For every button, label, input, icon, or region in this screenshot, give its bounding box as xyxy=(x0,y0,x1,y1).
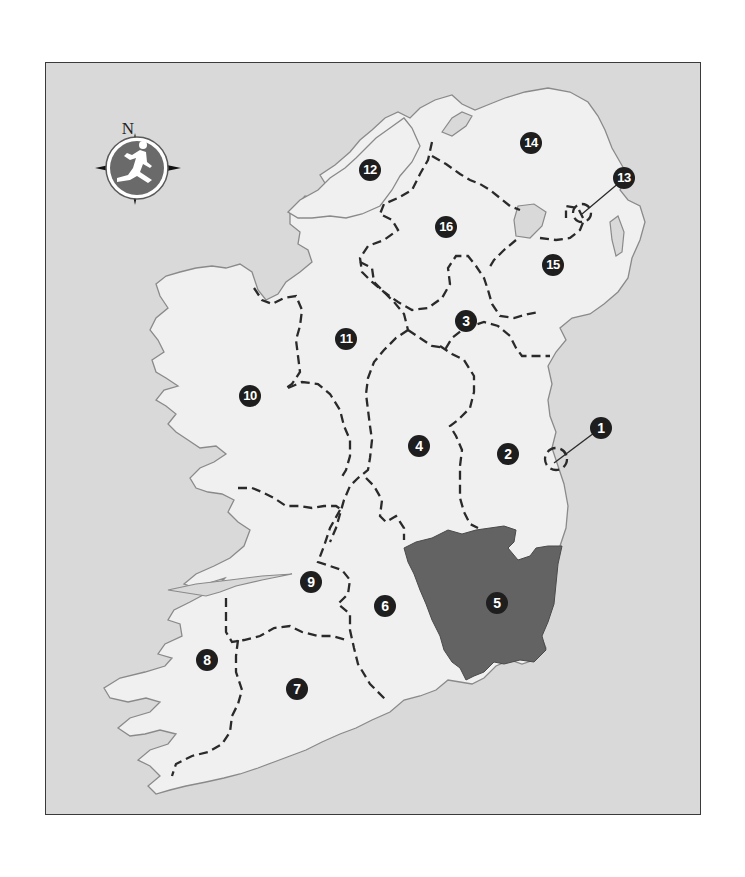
region-label-11[interactable]: 11 xyxy=(335,328,357,350)
callout-line-1 xyxy=(554,430,598,463)
region-label-13[interactable]: 13 xyxy=(613,167,635,189)
region-label-12[interactable]: 12 xyxy=(359,159,381,181)
region-label-1[interactable]: 1 xyxy=(590,417,612,439)
region-label-7[interactable]: 7 xyxy=(286,678,308,700)
region-label-2[interactable]: 2 xyxy=(497,443,519,465)
region-label-14[interactable]: 14 xyxy=(520,132,542,154)
region-label-15[interactable]: 15 xyxy=(542,254,564,276)
ireland-map xyxy=(0,0,745,877)
region-label-9[interactable]: 9 xyxy=(300,571,322,593)
compass-rose xyxy=(95,133,181,205)
region-label-16[interactable]: 16 xyxy=(435,216,457,238)
region-label-10[interactable]: 10 xyxy=(239,385,261,407)
region-label-8[interactable]: 8 xyxy=(196,649,218,671)
region-label-6[interactable]: 6 xyxy=(374,595,396,617)
region-label-5[interactable]: 5 xyxy=(486,592,508,614)
region-label-3[interactable]: 3 xyxy=(455,310,477,332)
region-label-4[interactable]: 4 xyxy=(408,435,430,457)
north-label: N xyxy=(122,119,134,139)
